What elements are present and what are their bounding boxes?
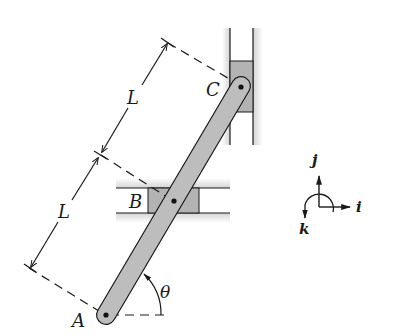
pin-c — [238, 84, 243, 89]
label-theta: θ — [160, 282, 170, 302]
angle-arc — [144, 274, 161, 315]
label-upper-l: L — [126, 87, 139, 108]
label-k: k — [299, 220, 309, 238]
label-c: C — [206, 79, 220, 100]
coordinate-axes: j i k — [299, 151, 362, 238]
pin-b — [171, 198, 176, 203]
pin-a — [103, 312, 108, 317]
label-i: i — [356, 198, 362, 216]
label-j: j — [309, 151, 318, 169]
label-lower-l: L — [57, 201, 70, 222]
dimension-upper-l: L — [102, 44, 167, 152]
label-a: A — [70, 310, 85, 331]
dimension-lower-l: L — [31, 158, 98, 267]
label-b: B — [128, 191, 142, 212]
mechanism-diagram: L L θ A B C j i k — [0, 0, 394, 335]
